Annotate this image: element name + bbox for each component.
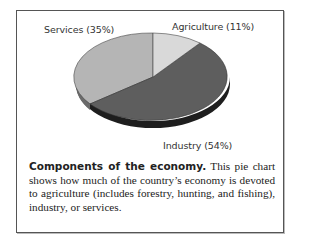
label-services: Services (35%)	[44, 24, 114, 35]
label-agriculture: Agriculture (11%)	[172, 21, 254, 32]
label-industry: Industry (54%)	[163, 140, 232, 151]
caption-title: Components of the economy.	[29, 160, 206, 172]
figure-caption: Components of the economy. This pie char…	[29, 160, 275, 214]
